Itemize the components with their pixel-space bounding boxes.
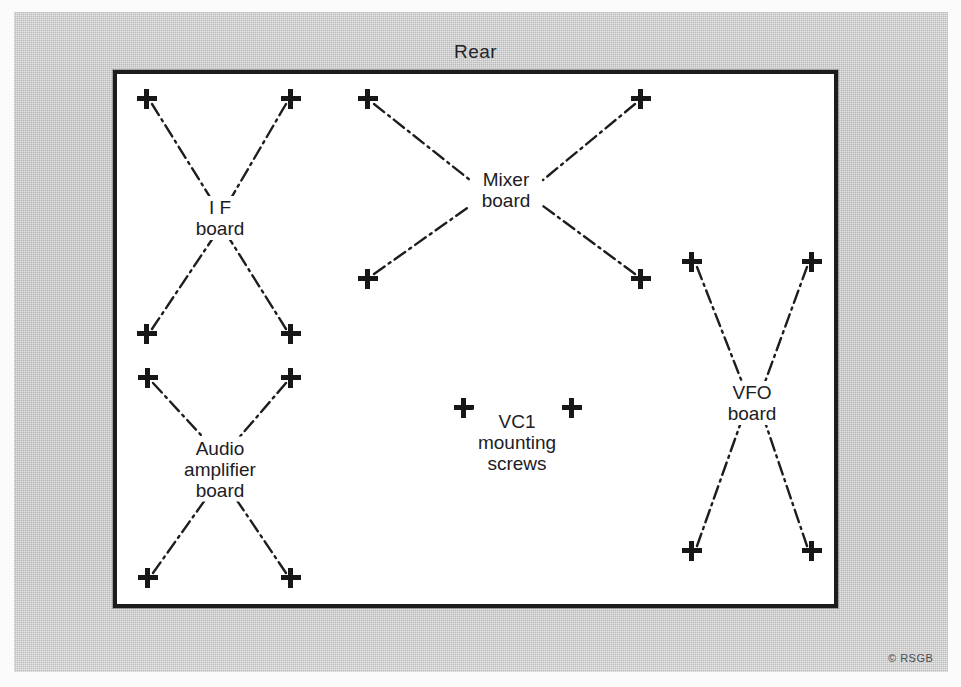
board-label-mixer-board: Mixerboard: [477, 168, 536, 212]
mounting-hole-cross-icon[interactable]: [631, 89, 651, 109]
mounting-hole-cross-icon[interactable]: [682, 252, 702, 272]
label-line: screws: [478, 453, 556, 474]
mounting-hole-cross-icon[interactable]: [138, 368, 158, 388]
leader-line-mixer-board: [543, 104, 635, 180]
publisher-credit: © RSGB: [888, 652, 933, 664]
label-line: board: [184, 480, 256, 501]
leader-line-vfo-board: [765, 267, 807, 382]
leader-line-vfo-board: [766, 425, 807, 546]
leader-line-mixer-board: [374, 206, 470, 274]
mounting-hole-cross-icon[interactable]: [137, 89, 157, 109]
leader-line-if-board: [227, 104, 286, 205]
label-line: VC1: [478, 411, 556, 432]
leader-line-audio-amplifier-board: [153, 493, 210, 573]
mounting-hole-cross-icon[interactable]: [281, 324, 301, 344]
board-label-if-board: I Fboard: [191, 196, 250, 240]
leader-line-if-board: [152, 238, 213, 329]
label-line: board: [196, 218, 245, 239]
label-line: board: [482, 190, 531, 211]
mounting-hole-cross-icon[interactable]: [682, 541, 702, 561]
board-label-audio-amplifier-board: Audioamplifierboard: [179, 437, 261, 502]
mounting-hole-cross-icon[interactable]: [281, 368, 301, 388]
mounting-hole-cross-icon[interactable]: [137, 324, 157, 344]
figure-root: Rear I FboardMixerboardAudioamplifierboa…: [0, 0, 961, 687]
leader-line-if-board: [152, 104, 215, 205]
mounting-hole-cross-icon[interactable]: [802, 252, 822, 272]
mounting-hole-cross-icon[interactable]: [358, 269, 378, 289]
mounting-hole-cross-icon[interactable]: [358, 89, 378, 109]
label-line: VFO: [728, 382, 777, 403]
mounting-hole-cross-icon[interactable]: [631, 269, 651, 289]
mounting-hole-cross-icon[interactable]: [138, 568, 158, 588]
leader-line-mixer-board: [374, 104, 470, 180]
label-line: Mixer: [482, 169, 531, 190]
leader-line-vfo-board: [697, 425, 740, 546]
leader-line-vfo-board: [697, 267, 742, 382]
label-line: I F: [196, 197, 245, 218]
label-line: mounting: [478, 432, 556, 453]
mounting-hole-cross-icon[interactable]: [454, 398, 474, 418]
annotation-label-vc1-mounting-screws: VC1mountingscrews: [473, 410, 561, 475]
label-line: amplifier: [184, 459, 256, 480]
label-line: board: [728, 403, 777, 424]
mounting-hole-cross-icon[interactable]: [562, 398, 582, 418]
mounting-hole-cross-icon[interactable]: [281, 89, 301, 109]
label-line: Audio: [184, 438, 256, 459]
mounting-hole-cross-icon[interactable]: [802, 541, 822, 561]
leader-line-if-board: [229, 238, 286, 329]
leader-line-audio-amplifier-board: [232, 493, 286, 573]
mounting-hole-cross-icon[interactable]: [281, 568, 301, 588]
leader-line-mixer-board: [543, 206, 635, 274]
board-label-vfo-board: VFOboard: [723, 381, 782, 425]
